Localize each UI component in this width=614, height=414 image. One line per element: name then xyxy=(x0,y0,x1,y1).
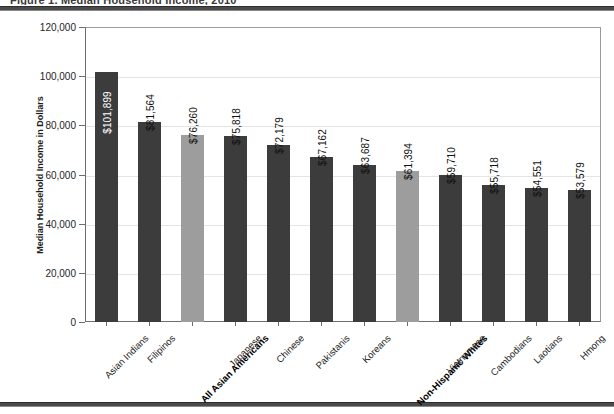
bar-slot[interactable]: $76,260 xyxy=(171,27,214,322)
x-axis-category-label: Chinese xyxy=(257,326,300,344)
bar-value-label: $67,162 xyxy=(316,129,327,166)
bar-slot[interactable]: $55,718 xyxy=(472,27,515,322)
bar[interactable] xyxy=(568,190,591,322)
bar-slot[interactable]: $72,179 xyxy=(257,27,300,322)
figure-title: Figure 1. Median Household Income, 2010 xyxy=(10,0,237,5)
x-axis-category-label: Koreans xyxy=(343,326,386,344)
bar[interactable] xyxy=(310,157,333,322)
bar-slot[interactable]: $75,818 xyxy=(214,27,257,322)
bar-value-label: $61,394 xyxy=(402,143,413,180)
bar[interactable] xyxy=(181,135,204,322)
bar-slot[interactable]: $81,564 xyxy=(128,27,171,322)
bar[interactable] xyxy=(439,175,462,322)
bar[interactable] xyxy=(138,122,161,323)
y-axis-tick-mark xyxy=(79,322,85,323)
bar-value-label: $63,687 xyxy=(359,138,370,175)
top-divider-rule xyxy=(0,6,614,11)
bar[interactable] xyxy=(224,136,247,322)
y-axis-tick-label: 60,000 xyxy=(10,169,76,180)
bar-slot[interactable]: $101,899 xyxy=(85,27,128,322)
y-axis-tick-label: 20,000 xyxy=(10,267,76,278)
x-axis-category-label: Cambodians xyxy=(472,326,515,344)
bar-slot[interactable]: $59,710 xyxy=(429,27,472,322)
bar[interactable] xyxy=(396,171,419,322)
bar-value-label: $59,710 xyxy=(445,147,456,184)
bar-value-label: $55,718 xyxy=(488,157,499,194)
y-axis-tick-label: 80,000 xyxy=(10,120,76,131)
bar-slot[interactable]: $54,551 xyxy=(515,27,558,322)
x-axis-category-label: Pakistanis xyxy=(300,326,343,344)
x-axis-category-label: Hmong xyxy=(558,326,601,344)
bar-value-label: $72,179 xyxy=(273,117,284,154)
x-axis-category-label: Laotians xyxy=(515,326,558,344)
bar-series: $101,899$81,564$76,260$75,818$72,179$67,… xyxy=(85,27,601,322)
bar-value-label: $76,260 xyxy=(187,107,198,144)
bar-slot[interactable]: $53,579 xyxy=(558,27,601,322)
bar[interactable] xyxy=(482,185,505,322)
x-axis-category-label: Asian Indians xyxy=(85,326,128,344)
bar-slot[interactable]: $63,687 xyxy=(343,27,386,322)
bar-value-label: $81,564 xyxy=(144,94,155,131)
x-axis-category-label: Vietnamese xyxy=(429,326,472,344)
x-axis-category-labels: Asian IndiansFilipinosAll Asian American… xyxy=(85,326,601,406)
figure-container: Figure 1. Median Household Income, 2010 … xyxy=(0,0,614,414)
bar-slot[interactable]: $67,162 xyxy=(300,27,343,322)
bar[interactable] xyxy=(525,188,548,322)
y-axis-tick-label: 0 xyxy=(10,317,76,328)
x-axis-category-label: Non-Hispanic Whites xyxy=(386,326,429,344)
x-axis-category-label: Filipinos xyxy=(128,326,171,344)
bar-slot[interactable]: $61,394 xyxy=(386,27,429,322)
bar[interactable] xyxy=(267,145,290,322)
y-axis-tick-label: 120,000 xyxy=(10,22,76,33)
x-axis-category-label: Japanese xyxy=(214,326,257,344)
x-axis-category-label: All Asian Americans xyxy=(171,326,214,344)
y-axis-tick-label: 40,000 xyxy=(10,218,76,229)
x-axis-category-label-text: Hmong xyxy=(578,331,609,362)
bar-value-label: $101,899 xyxy=(101,91,112,134)
bar-value-label: $53,579 xyxy=(574,162,585,199)
bar-value-label: $54,551 xyxy=(531,160,542,197)
bar-value-label: $75,818 xyxy=(230,108,241,145)
bar[interactable] xyxy=(353,165,376,322)
y-axis-tick-label: 100,000 xyxy=(10,71,76,82)
